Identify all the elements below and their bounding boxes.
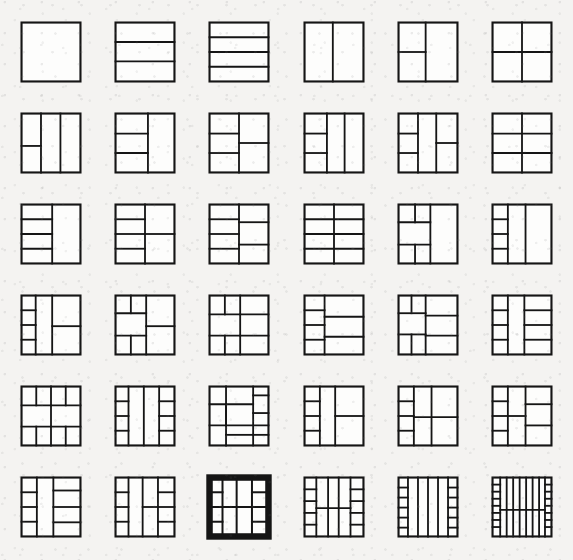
outer-frame bbox=[22, 22, 81, 81]
floorplan-diagram-22 bbox=[298, 292, 370, 358]
pattern-cell bbox=[192, 461, 286, 552]
pattern-cell bbox=[286, 370, 380, 461]
floorplan-diagram-6 bbox=[486, 19, 558, 85]
pattern-cell bbox=[98, 279, 192, 370]
pattern-cell bbox=[286, 461, 380, 552]
floorplan-diagram-12 bbox=[486, 110, 558, 176]
pattern-cell bbox=[192, 188, 286, 279]
pattern-cell bbox=[381, 97, 475, 188]
floorplan-diagram-10 bbox=[298, 110, 370, 176]
floorplan-diagram-1 bbox=[15, 19, 87, 85]
outer-frame bbox=[304, 22, 363, 81]
pattern-cell bbox=[98, 97, 192, 188]
outer-frame bbox=[116, 113, 175, 172]
outer-frame bbox=[116, 295, 175, 354]
outer-frame bbox=[210, 295, 269, 354]
pattern-cell bbox=[286, 6, 380, 97]
floorplan-diagram-20 bbox=[109, 292, 181, 358]
pattern-cell bbox=[192, 6, 286, 97]
floorplan-diagram-32 bbox=[109, 474, 181, 540]
floorplan-diagram-16 bbox=[298, 201, 370, 267]
floorplan-diagram-27 bbox=[203, 383, 275, 449]
pattern-cell bbox=[98, 188, 192, 279]
pattern-cell bbox=[475, 370, 569, 461]
pattern-cell bbox=[286, 279, 380, 370]
pattern-cell bbox=[4, 370, 98, 461]
pattern-cell bbox=[475, 461, 569, 552]
floorplan-diagram-24 bbox=[486, 292, 558, 358]
pattern-cell bbox=[475, 6, 569, 97]
floorplan-diagram-33 bbox=[203, 474, 275, 540]
pattern-cell bbox=[381, 188, 475, 279]
floorplan-diagram-19 bbox=[15, 292, 87, 358]
pattern-cell bbox=[4, 188, 98, 279]
pattern-cell bbox=[98, 6, 192, 97]
pattern-cell bbox=[381, 461, 475, 552]
pattern-cell bbox=[4, 461, 98, 552]
pattern-cell bbox=[4, 279, 98, 370]
floorplan-diagram-9 bbox=[203, 110, 275, 176]
floorplan-diagram-35 bbox=[392, 474, 464, 540]
floorplan-diagram-8 bbox=[109, 110, 181, 176]
pattern-cell bbox=[192, 370, 286, 461]
pattern-cell bbox=[98, 461, 192, 552]
floorplan-diagram-5 bbox=[392, 19, 464, 85]
floorplan-diagram-29 bbox=[392, 383, 464, 449]
floorplan-diagram-21 bbox=[203, 292, 275, 358]
floorplan-diagram-18 bbox=[486, 201, 558, 267]
outer-frame bbox=[116, 22, 175, 81]
floorplan-diagram-30 bbox=[486, 383, 558, 449]
pattern-cell bbox=[4, 6, 98, 97]
outer-frame bbox=[492, 477, 551, 536]
floorplan-diagram-15 bbox=[203, 201, 275, 267]
floorplan-diagram-26 bbox=[109, 383, 181, 449]
figure-sheet bbox=[0, 0, 573, 560]
outer-frame bbox=[304, 477, 363, 536]
floorplan-diagram-13 bbox=[15, 201, 87, 267]
pattern-cell bbox=[475, 97, 569, 188]
outer-frame bbox=[398, 295, 457, 354]
outer-frame bbox=[22, 113, 81, 172]
floorplan-diagram-34 bbox=[298, 474, 370, 540]
floorplan-diagram-31 bbox=[15, 474, 87, 540]
floorplan-diagram-4 bbox=[298, 19, 370, 85]
floorplan-diagram-14 bbox=[109, 201, 181, 267]
pattern-cell bbox=[381, 6, 475, 97]
floorplan-diagram-17 bbox=[392, 201, 464, 267]
floorplan-diagram-3 bbox=[203, 19, 275, 85]
pattern-cell bbox=[475, 188, 569, 279]
outer-frame bbox=[398, 204, 457, 263]
pattern-cell bbox=[381, 370, 475, 461]
pattern-cell bbox=[192, 97, 286, 188]
floorplan-diagram-36 bbox=[486, 474, 558, 540]
pattern-cell bbox=[286, 97, 380, 188]
floorplan-diagram-7 bbox=[15, 110, 87, 176]
pattern-cell bbox=[286, 188, 380, 279]
floorplan-diagram-25 bbox=[15, 383, 87, 449]
pattern-cell bbox=[192, 279, 286, 370]
pattern-cell bbox=[98, 370, 192, 461]
pattern-cell bbox=[475, 279, 569, 370]
floorplan-diagram-11 bbox=[392, 110, 464, 176]
pattern-grid bbox=[0, 0, 573, 560]
pattern-cell bbox=[4, 97, 98, 188]
pattern-cell bbox=[381, 279, 475, 370]
floorplan-diagram-23 bbox=[392, 292, 464, 358]
floorplan-diagram-2 bbox=[109, 19, 181, 85]
floorplan-diagram-28 bbox=[298, 383, 370, 449]
outer-frame bbox=[304, 113, 363, 172]
